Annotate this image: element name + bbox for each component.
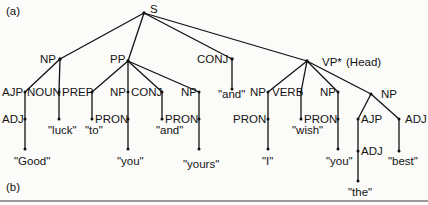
parse-tree-edges xyxy=(0,0,428,205)
leaf-good: "Good" xyxy=(14,155,50,167)
node-adj: ADJ xyxy=(405,113,427,125)
node-np: NP xyxy=(110,86,126,98)
leaf-wish: "wish" xyxy=(292,124,323,136)
leaf-and: "and" xyxy=(156,124,183,136)
node-np: NP xyxy=(250,86,266,98)
leaf-the: "the" xyxy=(348,186,372,198)
node-pron: PRON xyxy=(304,113,337,125)
node-prep: PREP xyxy=(62,86,93,98)
leaf-best: "best" xyxy=(388,155,418,167)
leaf-you: "you" xyxy=(326,155,353,167)
node-np: NP xyxy=(320,86,336,98)
node-vp-head-note: (Head) xyxy=(346,56,381,68)
node-pron: PRON xyxy=(233,113,266,125)
leaf-yours: "yours" xyxy=(183,158,219,170)
node-conj: CONJ xyxy=(131,86,162,98)
node-noun: NOUN xyxy=(27,86,61,98)
leaf-to: "to" xyxy=(85,124,103,136)
node-vp-head: VP* xyxy=(322,56,342,68)
node-verb: VERB xyxy=(272,86,303,98)
divider-line xyxy=(0,200,428,202)
leaf-you: "you" xyxy=(117,155,144,167)
node-pron: PRON xyxy=(95,113,128,125)
figure-label-b: (b) xyxy=(6,181,20,193)
leaf-luck: "luck" xyxy=(48,124,77,136)
node-ajp: AJP xyxy=(361,113,382,125)
figure-label-a: (a) xyxy=(6,5,20,17)
node-adj: ADJ xyxy=(2,113,24,125)
node-np: NP xyxy=(381,88,397,100)
node-adj: ADJ xyxy=(361,145,383,157)
node-s: S xyxy=(150,3,158,15)
node-np: NP xyxy=(181,86,197,98)
node-ajp: AJP xyxy=(2,86,23,98)
node-pron: PRON xyxy=(165,113,198,125)
leaf-and: "and" xyxy=(218,88,245,100)
node-conj: CONJ xyxy=(197,53,228,65)
node-pp: PP xyxy=(110,53,125,65)
leaf-i: "I" xyxy=(262,155,273,167)
node-np: NP xyxy=(40,53,56,65)
